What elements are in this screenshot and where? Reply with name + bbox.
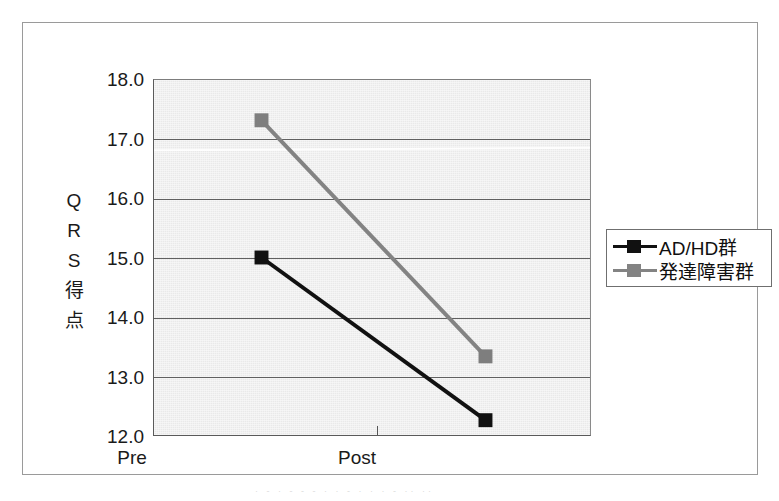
scan-text-artifact: · - · - - - · · - · · · - ·· ·· xyxy=(255,486,555,496)
y-tick-label: 18.0 xyxy=(107,69,144,91)
plot-area xyxy=(153,79,591,436)
figure-frame: Q R S 得 点 18.0 17.0 16.0 15.0 14.0 13.0 … xyxy=(22,22,758,475)
y-tick-label: 12.0 xyxy=(107,426,144,448)
line-series-adhd xyxy=(262,258,486,421)
data-point-marker xyxy=(255,113,269,127)
y-tick-label: 15.0 xyxy=(107,248,144,270)
y-tick-label: 17.0 xyxy=(107,129,144,151)
legend-item-adhd[interactable]: AD/HD群 xyxy=(613,234,765,258)
legend-item-hattatsu[interactable]: 発達障害群 xyxy=(613,258,765,282)
legend-key-square-icon xyxy=(613,262,657,278)
y-tick-label: 16.0 xyxy=(107,188,144,210)
legend-key-square-icon xyxy=(613,238,657,254)
x-tick-label-post: Post xyxy=(312,447,402,469)
y-tick-label: 14.0 xyxy=(107,307,144,329)
y-tick-label: 13.0 xyxy=(107,367,144,389)
legend-label: 発達障害群 xyxy=(659,257,754,284)
legend-label: AD/HD群 xyxy=(659,233,737,260)
data-point-marker xyxy=(479,349,493,363)
y-axis-tick-labels: 18.0 17.0 16.0 15.0 14.0 13.0 12.0 xyxy=(78,79,144,436)
line-series-hattatsu xyxy=(262,120,486,356)
data-point-marker xyxy=(479,413,493,427)
chart-legend: AD/HD群 発達障害群 xyxy=(606,229,772,287)
x-tick-label-pre: Pre xyxy=(87,447,177,469)
series-plot xyxy=(154,80,590,435)
data-point-marker xyxy=(255,251,269,265)
